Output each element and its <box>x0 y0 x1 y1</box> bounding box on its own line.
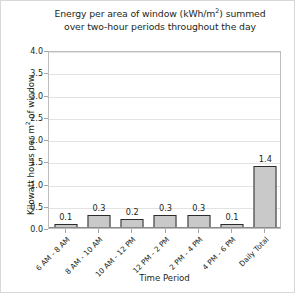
chart-figure: Energy per area of window (kWh/m2) summe… <box>0 0 295 293</box>
bar-slot: 0.3 <box>182 52 215 228</box>
y-axis-tick-label: 0.0 <box>21 225 43 234</box>
bar-value-label: 0.1 <box>226 212 239 222</box>
x-axis-tick-label: 2 PM - 4 PM <box>167 235 204 272</box>
y-axis-tick-label: 2.0 <box>21 136 43 145</box>
bar[interactable] <box>87 215 110 228</box>
chart-title-line1-pre: Energy per area of window (kWh/m <box>54 8 215 19</box>
x-axis-tick-mark <box>131 229 132 233</box>
bar-value-label: 0.2 <box>126 207 139 217</box>
bar-slot: 0.2 <box>116 52 149 228</box>
bar-value-label: 0.3 <box>192 203 205 213</box>
y-axis-tick-label: 1.5 <box>21 158 43 167</box>
x-axis-tick-mark <box>198 229 199 233</box>
bar-slot: 0.1 <box>49 52 82 228</box>
x-axis-tick-mark <box>231 229 232 233</box>
x-axis-tick-mark <box>65 229 66 233</box>
x-axis-title: Time Period <box>48 273 281 283</box>
bar-slot: 0.3 <box>82 52 115 228</box>
bar-slot: 1.4 <box>249 52 282 228</box>
y-axis-tick-label: 3.5 <box>21 69 43 78</box>
bar-value-label: 0.3 <box>159 203 172 213</box>
y-axis-tick-label: 1.0 <box>21 180 43 189</box>
x-axis-tick-mark <box>98 229 99 233</box>
bar-value-label: 1.4 <box>259 154 272 164</box>
x-axis-tick-label: Daily Total <box>238 235 271 268</box>
x-axis-line <box>49 227 280 228</box>
x-axis-tick-mark <box>165 229 166 233</box>
plot-area: 0.10.30.20.30.30.11.4 <box>48 51 281 229</box>
chart-title-line1-post: ) summed <box>219 8 265 19</box>
x-axis-tick-mark <box>264 229 265 233</box>
y-axis-tick-label: 2.5 <box>21 113 43 122</box>
y-axis-tick-mark <box>44 229 48 230</box>
x-axis-tick-label: 4 PM - 6 PM <box>201 235 238 272</box>
bar[interactable] <box>154 215 177 228</box>
bar-slot: 0.3 <box>149 52 182 228</box>
y-axis-tick-label: 3.0 <box>21 91 43 100</box>
bar[interactable] <box>187 215 210 228</box>
chart-title-line2: over two-hour periods throughout the day <box>64 21 256 32</box>
bar-value-label: 0.1 <box>59 212 72 222</box>
bar-value-label: 0.3 <box>92 203 105 213</box>
y-axis-tick-label: 4.0 <box>21 47 43 56</box>
y-axis-tick-label: 0.5 <box>21 202 43 211</box>
bar-slot: 0.1 <box>215 52 248 228</box>
bar[interactable] <box>254 166 277 228</box>
chart-title: Energy per area of window (kWh/m2) summe… <box>31 7 289 33</box>
